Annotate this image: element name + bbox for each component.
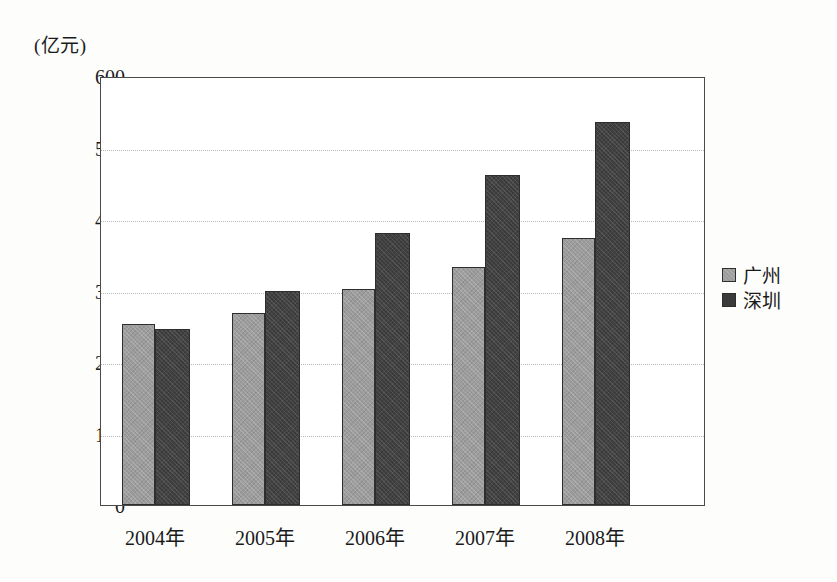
x-axis-tick-2007年: 2007年 [425, 522, 545, 551]
legend-item-广州: 广州 [722, 262, 781, 287]
bar-深圳-2004年 [155, 329, 190, 505]
legend-label-深圳: 深圳 [743, 286, 781, 313]
bar-group-2005年 [232, 76, 300, 505]
x-axis-tick-2004年: 2004年 [95, 522, 215, 551]
chart-canvas: (亿元) 6005004003002001000 2004年2005年2006年… [0, 0, 837, 582]
legend-swatch-guangzhou [722, 268, 736, 282]
legend-label-广州: 广州 [743, 261, 781, 288]
legend-item-深圳: 深圳 [722, 287, 781, 312]
plot-area [100, 77, 705, 506]
x-axis-tick-2006年: 2006年 [315, 522, 435, 551]
bar-广州-2008年 [562, 238, 595, 505]
chart-legend: 广州深圳 [722, 262, 781, 312]
bar-广州-2004年 [122, 324, 155, 505]
bar-深圳-2007年 [485, 175, 520, 505]
bar-广州-2007年 [452, 267, 485, 505]
bar-深圳-2008年 [595, 122, 630, 505]
x-axis-tick-2005年: 2005年 [205, 522, 325, 551]
bar-group-2004年 [122, 76, 190, 505]
x-axis-tick-2008年: 2008年 [535, 522, 655, 551]
legend-swatch-shenzhen [722, 293, 736, 307]
bar-广州-2005年 [232, 313, 265, 505]
bar-group-2006年 [342, 76, 410, 505]
bar-group-2008年 [562, 76, 630, 505]
bar-group-2007年 [452, 76, 520, 505]
bar-深圳-2006年 [375, 233, 410, 505]
bar-深圳-2005年 [265, 291, 300, 505]
bar-广州-2006年 [342, 289, 375, 505]
y-axis-unit-label: (亿元) [34, 30, 87, 57]
